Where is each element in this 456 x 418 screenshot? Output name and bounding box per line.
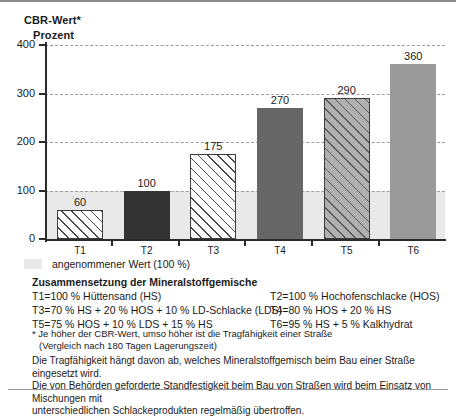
legend-label: angenommener Wert (100 %) bbox=[52, 258, 190, 270]
x-label-t3: T3 bbox=[183, 245, 243, 256]
x-label-t5: T5 bbox=[317, 245, 377, 256]
footnote-asterisk: * Je höher der CBR-Wert, umso höher ist … bbox=[32, 328, 448, 352]
y-tick-400 bbox=[39, 44, 46, 46]
x-label-t2: T2 bbox=[117, 245, 177, 256]
composition-entry-t4: T4=80 % HOS + 20 % HS bbox=[270, 304, 446, 317]
y-tick-300 bbox=[39, 93, 46, 95]
value-label-t2: 100 bbox=[117, 177, 177, 189]
x-label-t6: T6 bbox=[383, 245, 443, 256]
gridline-100 bbox=[45, 191, 445, 192]
note-line-1: Die Tragfähigkeit hängt davon ab, welche… bbox=[32, 355, 448, 380]
note-line-3: unterschiedlichen Schlackeprodukten rege… bbox=[32, 405, 448, 418]
bar-t4[interactable] bbox=[257, 108, 303, 239]
y-tick-100 bbox=[39, 190, 46, 192]
y-tick-200 bbox=[39, 141, 46, 143]
note-line-2: Die von Behörden geforderte Standfestigk… bbox=[32, 380, 448, 405]
x-tick-3 bbox=[244, 241, 246, 246]
x-tick-1 bbox=[111, 241, 113, 246]
value-label-t5: 290 bbox=[317, 84, 377, 96]
bar-t5[interactable] bbox=[324, 98, 370, 239]
x-tick-4 bbox=[311, 241, 313, 246]
value-label-t1: 60 bbox=[50, 196, 110, 208]
gridline-400 bbox=[45, 45, 445, 46]
composition-entry-t3: T3=70 % HS + 20 % HOS + 10 % LD-Schlacke… bbox=[32, 304, 270, 317]
y-label-400: 400 bbox=[5, 38, 35, 50]
bar-t1[interactable] bbox=[57, 210, 103, 239]
y-label-100: 100 bbox=[5, 184, 35, 196]
y-tick-0 bbox=[39, 238, 46, 240]
footnote-line-2: (Vergleich nach 180 Tagen Lagerungszeit) bbox=[32, 340, 448, 352]
bar-t2[interactable] bbox=[124, 191, 170, 240]
x-label-t1: T1 bbox=[50, 245, 110, 256]
composition-block: Zusammensetzung der Mineralstoffgemische… bbox=[32, 276, 446, 331]
footnote-line-1: * Je höher der CBR-Wert, umso höher ist … bbox=[32, 328, 448, 340]
bar-t3[interactable] bbox=[190, 154, 236, 239]
y-axis-unit-label: Prozent bbox=[33, 29, 74, 41]
y-label-300: 300 bbox=[5, 87, 35, 99]
y-label-0: 0 bbox=[5, 232, 35, 244]
legend-swatch-icon bbox=[24, 259, 42, 269]
bottom-divider bbox=[8, 389, 448, 390]
bar-t6[interactable] bbox=[390, 64, 436, 239]
composition-entry-t2: T2=100 % Hochofenschlacke (HOS) bbox=[270, 290, 446, 303]
value-label-t6: 360 bbox=[383, 50, 443, 62]
composition-grid: T1=100 % Hüttensand (HS) T2=100 % Hochof… bbox=[32, 290, 446, 331]
composition-title: Zusammensetzung der Mineralstoffgemische bbox=[32, 276, 446, 288]
top-divider bbox=[0, 0, 456, 2]
footnote-note: Die Tragfähigkeit hängt davon ab, welche… bbox=[32, 355, 448, 418]
gridline-300 bbox=[45, 94, 445, 95]
bar-chart: CBR-Wert* Prozent 400 300 200 100 0 bbox=[0, 4, 456, 256]
x-tick-5 bbox=[378, 241, 380, 246]
x-tick-2 bbox=[178, 241, 180, 246]
value-label-t3: 175 bbox=[183, 140, 243, 152]
chart-legend: angenommener Wert (100 %) bbox=[24, 258, 190, 270]
x-label-t4: T4 bbox=[250, 245, 310, 256]
y-label-200: 200 bbox=[5, 135, 35, 147]
value-label-t4: 270 bbox=[250, 94, 310, 106]
composition-entry-t1: T1=100 % Hüttensand (HS) bbox=[32, 290, 270, 303]
chart-title: CBR-Wert* bbox=[24, 14, 81, 26]
plot-area bbox=[45, 45, 445, 239]
gridline-200 bbox=[45, 142, 445, 143]
